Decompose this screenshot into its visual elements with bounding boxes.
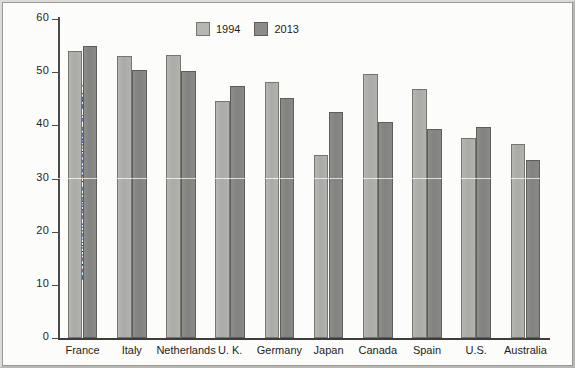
bar-group	[501, 19, 550, 338]
bar-group	[58, 19, 107, 338]
x-axis-label-netherlands: Netherlands	[156, 344, 205, 356]
bar-canada-1994[interactable]	[363, 74, 378, 338]
bar-group	[206, 19, 255, 338]
x-axis-label-uk: U. K.	[206, 344, 255, 356]
y-tick-label: 10	[36, 277, 49, 289]
x-axis-label-france: France	[58, 344, 107, 356]
legend-item-1994[interactable]: 1994	[196, 22, 240, 36]
y-tick-label: 60	[36, 11, 49, 23]
bar-netherlands-2013[interactable]	[181, 71, 196, 338]
y-tick-20: 20	[0, 232, 58, 233]
y-tick-30: 30	[0, 179, 58, 180]
bar-group	[255, 19, 304, 338]
bar-japan-1994[interactable]	[314, 155, 329, 338]
bar-canada-2013[interactable]	[378, 122, 393, 338]
y-tick-0: 0	[0, 338, 58, 339]
bar-group	[353, 19, 402, 338]
bar-australia-2013[interactable]	[526, 160, 541, 338]
bar-group	[107, 19, 156, 338]
legend-swatch-2013-icon	[254, 22, 268, 36]
bar-us-2013[interactable]	[476, 127, 491, 338]
bar-spain-1994[interactable]	[412, 89, 427, 338]
bar-group	[402, 19, 451, 338]
y-tick-label: 40	[36, 117, 49, 129]
y-tick-10: 10	[0, 285, 58, 286]
chart-figure: 0102030405060 Government outlays (percen…	[0, 0, 575, 368]
bar-france-1994[interactable]	[68, 51, 83, 338]
legend-label-2013: 2013	[274, 23, 298, 35]
bar-uk-1994[interactable]	[215, 101, 230, 338]
x-axis-labels: FranceItalyNetherlandsU. K.GermanyJapanC…	[58, 342, 550, 364]
x-axis-label-germany: Germany	[255, 344, 304, 356]
y-tick-label: 20	[36, 224, 49, 236]
x-axis-label-us: U.S.	[452, 344, 501, 356]
bar-italy-2013[interactable]	[132, 70, 147, 338]
legend-label-1994: 1994	[216, 23, 240, 35]
legend-swatch-1994-icon	[196, 22, 210, 36]
bar-netherlands-1994[interactable]	[166, 55, 181, 338]
bar-germany-2013[interactable]	[280, 98, 295, 338]
bar-group	[452, 19, 501, 338]
chart-legend: 1994 2013	[196, 22, 299, 36]
y-tick-label: 0	[43, 330, 49, 342]
y-tick-60: 60	[0, 19, 58, 20]
x-axis-label-australia: Australia	[501, 344, 550, 356]
bars-layer	[58, 19, 550, 338]
legend-item-2013[interactable]: 2013	[254, 22, 298, 36]
x-axis-label-japan: Japan	[304, 344, 353, 356]
bar-france-2013[interactable]	[83, 46, 98, 338]
bar-japan-2013[interactable]	[329, 112, 344, 338]
x-axis-line	[58, 338, 550, 340]
x-axis-label-canada: Canada	[353, 344, 402, 356]
y-tick-40: 40	[0, 125, 58, 126]
bar-uk-2013[interactable]	[230, 86, 245, 338]
y-tick-label: 30	[36, 171, 49, 183]
bar-group	[304, 19, 353, 338]
bar-spain-2013[interactable]	[427, 129, 442, 338]
bar-italy-1994[interactable]	[117, 56, 132, 338]
bar-germany-1994[interactable]	[265, 82, 280, 338]
x-axis-label-italy: Italy	[107, 344, 156, 356]
y-tick-label: 50	[36, 64, 49, 76]
bar-us-1994[interactable]	[461, 138, 476, 338]
bar-group	[156, 19, 205, 338]
y-tick-mark	[52, 338, 58, 339]
bar-australia-1994[interactable]	[511, 144, 526, 338]
x-axis-label-spain: Spain	[402, 344, 451, 356]
y-tick-50: 50	[0, 72, 58, 73]
